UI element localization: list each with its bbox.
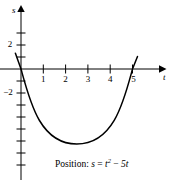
x-tick-label-3: 3 — [83, 75, 93, 84]
x-tick-label-2: 2 — [61, 75, 71, 84]
caption-exponent-2: 2 — [108, 157, 111, 164]
x-tick-label-1: 1 — [38, 75, 48, 84]
position-graph-figure: s t 1 2 3 4 5 2 −2 Position: s = t2 − 5t — [0, 0, 173, 184]
equation-caption: Position: s = t2 − 5t — [55, 160, 128, 170]
caption-minus-sign: − — [113, 159, 118, 169]
coordinate-plot — [0, 0, 173, 184]
y-axis-arrow-icon — [17, 5, 24, 12]
caption-prefix: Position: — [55, 159, 89, 169]
position-curve — [15, 53, 137, 144]
x-tick-label-5: 5 — [129, 75, 139, 84]
caption-term-5t: 5t — [121, 159, 128, 169]
y-tick-label-minus-2: −2 — [1, 88, 15, 97]
x-tick-label-4: 4 — [105, 75, 115, 84]
caption-equals: = — [97, 159, 102, 169]
caption-variable-s: s — [91, 159, 95, 169]
x-axis-label: t — [163, 73, 166, 82]
y-tick-label-2: 2 — [5, 40, 15, 49]
y-axis-label: s — [12, 6, 16, 15]
